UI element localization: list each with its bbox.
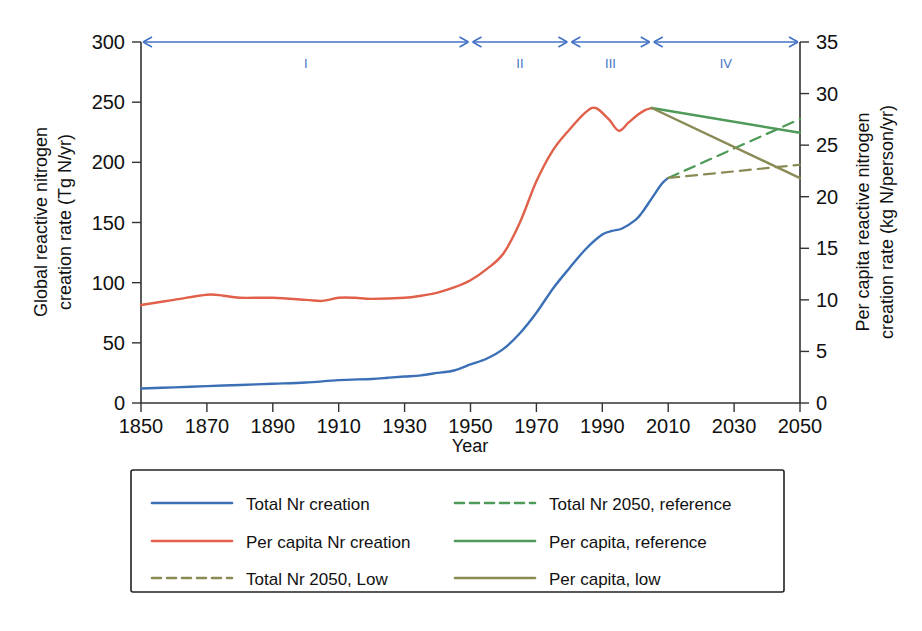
x-axis-title: Year	[452, 436, 488, 456]
axes-group	[141, 42, 800, 403]
right-tick-label: 25	[816, 134, 838, 156]
left-tick-label: 150	[92, 212, 125, 234]
phase-label: I	[304, 56, 308, 71]
series-per-capita-nr-creation	[141, 108, 652, 305]
right-tick-label: 10	[816, 289, 838, 311]
x-tick-label: 1970	[514, 415, 559, 437]
left-axis-ticks: 050100150200250300	[92, 31, 141, 414]
x-tick-label: 2010	[646, 415, 691, 437]
x-tick-label: 1890	[251, 415, 296, 437]
left-tick-label: 250	[92, 91, 125, 113]
left-tick-label: 0	[114, 392, 125, 414]
right-tick-label: 35	[816, 31, 838, 53]
phase-label: IV	[720, 56, 733, 71]
legend-label: Total Nr creation	[246, 495, 370, 514]
right-tick-label: 30	[816, 83, 838, 105]
right-axis-title-line2: creation rate (kg N/person/yr)	[877, 105, 897, 339]
legend-label: Per capita, low	[549, 570, 661, 589]
data-series-group	[141, 108, 800, 389]
x-tick-label: 1950	[448, 415, 493, 437]
x-tick-label: 1990	[580, 415, 625, 437]
x-axis-ticks: 1850187018901910193019501970199020102030…	[119, 403, 823, 437]
nitrogen-creation-chart: 050100150200250300 05101520253035 185018…	[0, 0, 922, 631]
legend-box	[131, 470, 784, 592]
phase-label: II	[516, 56, 523, 71]
phase-label: III	[605, 56, 616, 71]
left-tick-label: 200	[92, 151, 125, 173]
left-tick-label: 50	[103, 332, 125, 354]
right-tick-label: 0	[816, 392, 827, 414]
right-axis-ticks: 05101520253035	[800, 31, 838, 414]
phase-annotations: IIIIIIIV	[143, 37, 798, 71]
left-axis-title-line1: Global reactive nitrogen	[31, 127, 51, 317]
x-tick-label: 2050	[778, 415, 823, 437]
legend-label: Per capita Nr creation	[246, 533, 410, 552]
series-per-capita-reference	[652, 108, 800, 133]
legend-label: Per capita, reference	[549, 533, 707, 552]
left-axis-title-group: Global reactive nitrogen creation rate (…	[31, 127, 75, 317]
right-axis-title-group: Per capita reactive nitrogen creation ra…	[853, 105, 897, 339]
series-per-capita-low	[652, 108, 800, 178]
legend-label: Total Nr 2050, Low	[246, 570, 388, 589]
series-total-nr-2050-low	[668, 165, 800, 178]
legend-label: Total Nr 2050, reference	[549, 495, 731, 514]
left-tick-label: 300	[92, 31, 125, 53]
left-tick-label: 100	[92, 272, 125, 294]
left-axis-title-line2: creation rate (Tg N/yr)	[55, 134, 75, 310]
right-tick-label: 5	[816, 340, 827, 362]
x-tick-label: 1870	[185, 415, 230, 437]
right-tick-label: 20	[816, 186, 838, 208]
right-tick-label: 15	[816, 237, 838, 259]
x-tick-label: 1850	[119, 415, 164, 437]
figure-container: 050100150200250300 05101520253035 185018…	[0, 0, 922, 631]
series-total-nr-creation	[141, 178, 668, 389]
x-tick-label: 1910	[316, 415, 361, 437]
x-tick-label: 2030	[712, 415, 757, 437]
right-axis-title-line1: Per capita reactive nitrogen	[853, 112, 873, 331]
x-tick-label: 1930	[382, 415, 427, 437]
